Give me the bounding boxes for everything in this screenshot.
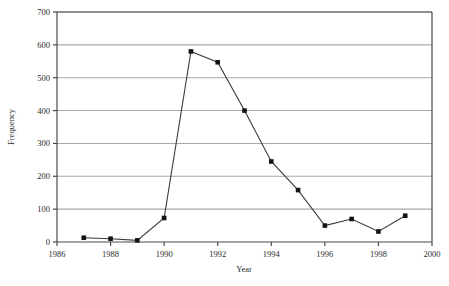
x-tick-label: 1988 [102,249,119,259]
data-point-marker [108,236,113,241]
data-point-marker [296,188,301,193]
data-point-marker [162,216,167,221]
x-tick-label: 2000 [424,249,441,259]
y-tick-label: 300 [37,138,50,148]
y-tick-label: 0 [46,237,50,247]
data-point-marker [349,217,354,222]
data-point-marker [81,235,86,240]
frequency-by-year-chart: 19861988199019921994199619982000 0100200… [0,0,449,286]
data-point-marker [215,60,220,65]
line-chart-figure: 19861988199019921994199619982000 0100200… [0,0,449,286]
data-point-marker [403,213,408,218]
data-point-marker [242,108,247,113]
data-point-marker [135,238,140,243]
x-tick-label: 1994 [263,249,281,259]
x-tick-label: 1998 [370,249,387,259]
x-tick-label: 1996 [316,249,333,259]
y-tick-label: 600 [37,40,50,50]
data-point-marker [376,229,381,234]
x-tick-label: 1986 [49,249,66,259]
y-axis-label: Frequency [6,108,16,145]
y-tick-label: 700 [37,7,50,17]
data-point-marker [189,49,194,54]
data-point-marker [269,159,274,164]
x-tick-label: 1992 [209,249,226,259]
data-point-marker [323,223,328,228]
y-tick-label: 500 [37,73,50,83]
y-tick-label: 200 [37,171,50,181]
y-tick-label: 100 [37,204,50,214]
x-axis-label: Year [236,264,252,274]
x-tick-label: 1990 [156,249,173,259]
y-tick-label: 400 [37,106,50,116]
